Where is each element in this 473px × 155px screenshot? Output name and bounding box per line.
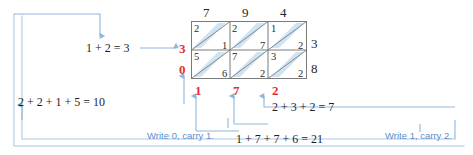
lattice-cell-r1c2-lower: 2 xyxy=(298,69,303,80)
result-digit-bottom-1: 1 xyxy=(195,84,202,97)
lattice-cell-r0c0-upper: 2 xyxy=(194,24,199,35)
equation-mid-right: 2 + 3 + 2 = 7 xyxy=(272,101,334,113)
equation-bottom-center: 1 + 7 + 7 + 6 = 21 xyxy=(236,133,323,145)
lattice-cell-r0c2-upper: 1 xyxy=(271,24,276,35)
diagonal-extensions xyxy=(307,21,308,22)
result-digit-bottom-3: 2 xyxy=(272,84,279,97)
result-digit-bottom-2: 7 xyxy=(233,84,240,97)
multiplier-digit-2: 8 xyxy=(311,62,318,75)
lattice-grid xyxy=(191,21,307,79)
multiplicand-digit-3: 4 xyxy=(280,6,287,19)
equation-lower-left: 2 + 2 + 1 + 5 = 10 xyxy=(18,96,105,108)
lattice-cell-r0c2-lower: 2 xyxy=(298,41,303,52)
lattice-cell-r1c1-lower: 2 xyxy=(260,69,265,80)
arrow-into-eq-upper-left xyxy=(14,14,100,36)
multiplier-digit-1: 3 xyxy=(311,37,318,50)
lattice-cell-r0c1-lower: 7 xyxy=(260,41,265,52)
multiplicand-digit-1: 7 xyxy=(203,6,210,19)
equation-upper-left: 1 + 2 = 3 xyxy=(86,42,130,54)
multiplicand-digit-2: 9 xyxy=(242,6,249,19)
lattice-cell-r1c1-upper: 7 xyxy=(232,52,237,63)
note-write-zero-carry-one: Write 0, carry 1. xyxy=(147,131,214,141)
lattice-cell-r0c0-lower: 1 xyxy=(222,41,227,52)
lattice-cell-r1c0-upper: 5 xyxy=(194,52,199,63)
note-write-one-carry-two: Write 1, carry 2. xyxy=(385,131,452,141)
lattice-cell-r1c0-lower: 6 xyxy=(222,69,227,80)
lattice-cell-r0c1-upper: 2 xyxy=(232,24,237,35)
result-digit-left-lower: 0 xyxy=(179,63,186,76)
lattice-multiplication-diagram: 7 9 4 3 8 3 0 1 7 2 2 1 2 7 1 2 5 6 7 2 … xyxy=(0,0,473,155)
lattice-cell-r1c2-upper: 3 xyxy=(271,52,276,63)
result-digit-left-upper: 3 xyxy=(179,42,186,55)
